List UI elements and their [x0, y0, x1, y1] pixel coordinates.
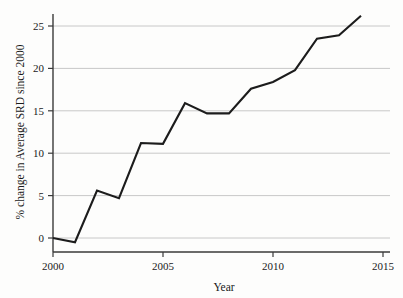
- y-tick-label-20: 20: [33, 62, 45, 74]
- x-axis-title: Year: [213, 281, 234, 293]
- y-tick-label-25: 25: [33, 20, 45, 32]
- figure-background: [0, 0, 403, 298]
- y-tick-label-0: 0: [39, 232, 45, 244]
- x-tick-label-2010: 2010: [262, 260, 285, 272]
- line-chart-canvas: 25 20 15 10 5 0 2000 2005 2010 2015 Year…: [0, 0, 403, 298]
- y-tick-label-5: 5: [39, 190, 45, 202]
- x-tick-label-2005: 2005: [152, 260, 175, 272]
- x-tick-label-2000: 2000: [42, 260, 65, 272]
- chart-figure: 25 20 15 10 5 0 2000 2005 2010 2015 Year…: [0, 0, 403, 298]
- x-tick-label-2015: 2015: [372, 260, 395, 272]
- y-axis-title: % change in Average SRD since 2000: [14, 44, 27, 219]
- y-tick-label-10: 10: [33, 147, 45, 159]
- y-tick-label-15: 15: [33, 105, 45, 117]
